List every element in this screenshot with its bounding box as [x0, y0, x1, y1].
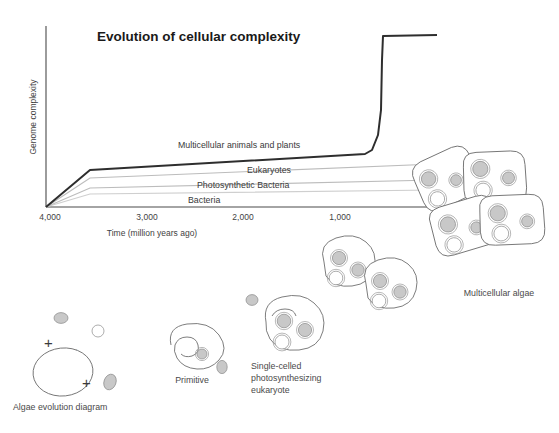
chart-title: Evolution of cellular complexity	[97, 29, 301, 44]
series-label-bacteria: Bacteria	[188, 195, 220, 205]
caption-multicellular-algae: Multicellular algae	[464, 288, 535, 298]
algae-evolution-diagram: + + + Algae evolution diagram	[13, 313, 118, 412]
engulfed-organelle	[197, 349, 207, 359]
x-tick-label-4000: 4,000	[39, 212, 61, 222]
diagram-organelle-right	[102, 372, 119, 391]
caption-single-celled-line1: Single-celled	[251, 361, 301, 371]
diagram-organelle-top	[54, 313, 68, 324]
caption-single-celled-line3: eukaryote	[251, 385, 290, 395]
nucleus	[275, 335, 289, 349]
caption-algae-evolution-diagram: Algae evolution diagram	[13, 402, 107, 412]
caption-single-celled-line2: photosynthesizing	[251, 373, 322, 383]
multicellular-algae-cluster: Multicellular algae	[409, 143, 547, 298]
chloroplast-a	[277, 314, 291, 328]
chloroplast-b	[298, 323, 311, 336]
plus-sign-1: +	[44, 334, 53, 351]
colony-cell-lower-right	[365, 258, 418, 310]
single-celled-eukaryote: Single-celled photosynthesizing eukaryot…	[246, 295, 324, 395]
primitive-cell-outline	[170, 323, 224, 369]
free-organelle	[246, 295, 258, 306]
x-tick-label-1000: 1,000	[329, 212, 351, 222]
caption-primitive: Primitive	[175, 375, 209, 385]
two-cell-colony	[323, 236, 418, 310]
x-tick-label-2000: 2,000	[232, 212, 254, 222]
y-axis-label: Genome complexity	[28, 79, 38, 155]
series-label-photosynthetic-bacteria: Photosynthetic Bacteria	[197, 180, 290, 190]
x-tick-label-3000: 3,000	[136, 212, 158, 222]
plus-sign-3: +	[82, 374, 91, 391]
x-axis-label: Time (million years ago)	[107, 228, 198, 238]
primitive-cell: Primitive	[170, 323, 227, 385]
diagram-organelle-white	[92, 325, 104, 337]
eukaryote-cell-outline	[265, 295, 324, 350]
figure-canvas: Evolution of cellular complexity Genome …	[0, 0, 559, 433]
algae-cell-bottom-right	[477, 191, 547, 249]
figure-root: Evolution of cellular complexity Genome …	[0, 0, 559, 433]
series-label-eukaryotes: Eukaryotes	[247, 165, 292, 175]
primitive-free-organelle	[217, 360, 227, 373]
series-line-bacteria	[46, 190, 435, 207]
series-label-multicellular-animals-and-plants: Multicellular animals and plants	[178, 140, 301, 150]
